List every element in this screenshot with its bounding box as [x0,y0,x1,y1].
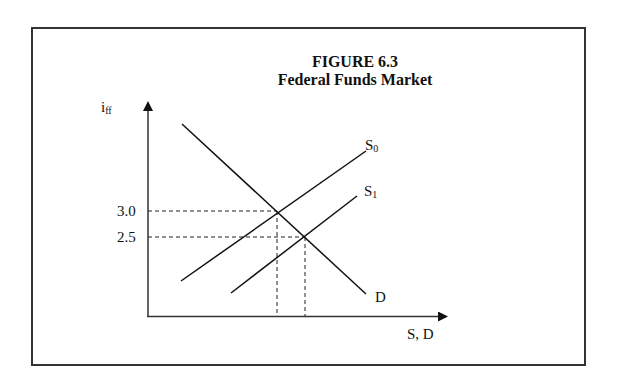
curve-label-s0: S0 [365,137,378,157]
y-tick-3.0: 3.0 [117,203,136,219]
y-tick-2.5: 2.5 [117,229,136,245]
y-axis-label: iff [101,99,112,119]
x-axis-label: S, D [407,326,434,342]
supply-curve-s0 [181,151,366,281]
chart-canvas [0,0,620,392]
demand-curve-d [182,124,366,294]
curve-label-d: D [375,289,386,305]
curve-label-s1: S1 [364,183,377,203]
